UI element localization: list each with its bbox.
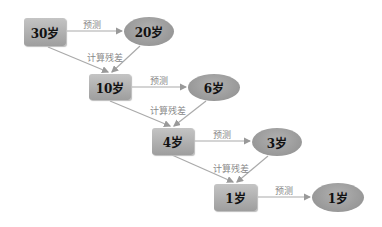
prediction-node-1: 20岁 bbox=[124, 17, 174, 46]
input-node-4: 1岁 bbox=[214, 184, 257, 211]
edge-label-residual-1: 计算残差 bbox=[87, 51, 123, 64]
prediction-node-2: 6岁 bbox=[188, 74, 240, 101]
edge-label-predict-4: 预测 bbox=[275, 184, 293, 197]
input-node-3: 4岁 bbox=[152, 128, 194, 155]
edge-label-residual-2: 计算残差 bbox=[150, 104, 186, 117]
prediction-node-3: 3岁 bbox=[252, 128, 302, 156]
prediction-node-4: 1岁 bbox=[312, 183, 364, 212]
edge-label-predict-2: 预测 bbox=[150, 74, 168, 87]
edge-label-predict-3: 预测 bbox=[213, 128, 231, 141]
edge-label-residual-3: 计算残差 bbox=[213, 162, 249, 175]
edge-label-predict-1: 预测 bbox=[83, 18, 101, 31]
input-node-2: 10岁 bbox=[89, 74, 131, 100]
input-node-1: 30岁 bbox=[24, 18, 66, 46]
